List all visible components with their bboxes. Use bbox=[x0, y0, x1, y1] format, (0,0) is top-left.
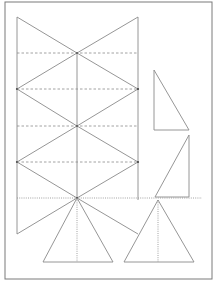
diag bbox=[77, 53, 138, 89]
isosceles-triangle-left bbox=[43, 198, 113, 262]
diagram-canvas bbox=[0, 0, 215, 287]
page-border bbox=[5, 2, 212, 279]
diag bbox=[17, 198, 77, 234]
right-triangle-lower bbox=[155, 135, 189, 197]
diag bbox=[17, 53, 77, 89]
main-hexagon-figure bbox=[16, 17, 139, 234]
dashed-guide-lines bbox=[17, 53, 202, 198]
border-rect bbox=[5, 2, 212, 279]
diag bbox=[77, 89, 138, 126]
diag bbox=[77, 17, 138, 53]
diag bbox=[17, 17, 77, 53]
right-triangle-upper bbox=[154, 70, 189, 130]
diag bbox=[17, 162, 77, 198]
diag bbox=[77, 198, 138, 234]
right-triangles bbox=[154, 70, 189, 197]
diag bbox=[77, 162, 138, 198]
isosceles-triangles bbox=[43, 198, 194, 262]
isosceles-triangle-right bbox=[124, 200, 194, 262]
diag bbox=[17, 126, 77, 162]
diag bbox=[77, 126, 138, 162]
diag bbox=[17, 89, 77, 126]
